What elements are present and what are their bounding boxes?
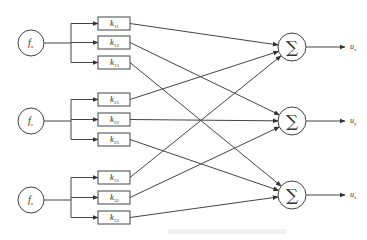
input-node-u: fu bbox=[18, 30, 44, 56]
gain-block-k23: k23 bbox=[98, 133, 130, 146]
decoupling-diagram: fufvfa k11k12k13k21k22k23k31k32k33 ∑ux∑u… bbox=[0, 0, 367, 240]
input-node-v: fv bbox=[18, 108, 44, 134]
output-label-ux: ux bbox=[350, 42, 357, 52]
output-label-uz: uz bbox=[350, 190, 357, 200]
input-nodes: fufvfa bbox=[18, 30, 44, 213]
gain-block-k13: k13 bbox=[98, 56, 130, 69]
gain-blocks: k11k12k13k21k22k23k31k32k33 bbox=[98, 17, 130, 224]
summing-junction-2: ∑uy bbox=[278, 107, 357, 135]
summing-junctions: ∑ux∑uy∑uz bbox=[278, 33, 357, 209]
svg-text:∑: ∑ bbox=[286, 185, 298, 205]
figure-caption bbox=[168, 229, 286, 234]
gain-block-k21: k21 bbox=[98, 93, 130, 106]
output-label-uy: uy bbox=[350, 116, 357, 126]
gain-block-k33: k33 bbox=[98, 211, 130, 224]
gain-block-k12: k12 bbox=[98, 36, 130, 49]
connection-wires bbox=[44, 24, 281, 218]
summing-junction-3: ∑uz bbox=[278, 181, 357, 209]
input-node-a: fa bbox=[18, 187, 44, 213]
summing-junction-1: ∑ux bbox=[278, 33, 357, 61]
gain-block-k32: k32 bbox=[98, 191, 130, 204]
gain-block-k31: k31 bbox=[98, 171, 130, 184]
svg-text:∑: ∑ bbox=[286, 37, 298, 57]
gain-block-k11: k11 bbox=[98, 17, 130, 30]
svg-text:∑: ∑ bbox=[286, 111, 298, 131]
gain-block-k22: k22 bbox=[98, 113, 130, 126]
